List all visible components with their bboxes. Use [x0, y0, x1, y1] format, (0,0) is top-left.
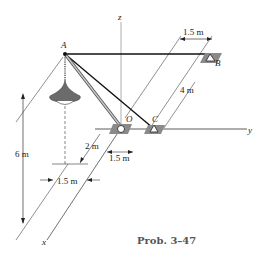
y-axis-label: y: [247, 125, 252, 135]
lamp-bulb: [56, 101, 74, 105]
dim-ext-top-left: [125, 36, 181, 118]
x-axis-label: x: [41, 237, 46, 247]
dim-height-label: 6 m: [15, 149, 29, 159]
arrow-head-icon: [48, 178, 53, 182]
z-axis-label: z: [117, 12, 122, 22]
statics-diagram: z y x 6 m 1.5 m 4 m A 2 m 1.5 m: [0, 0, 263, 255]
point-C-label: C: [152, 114, 159, 124]
arrow-head-icon: [21, 93, 25, 99]
point-O-label: O: [126, 114, 133, 124]
point-B-label: B: [215, 58, 221, 68]
dim-right-label: 4 m: [180, 85, 194, 95]
boom-AO-highlight: [65, 54, 122, 128]
dim-lamp-offset-y-label: 1.5 m: [57, 176, 78, 186]
lamp-shade: [50, 80, 81, 102]
point-A-label: A: [60, 40, 67, 50]
arrow-head-icon: [180, 37, 185, 41]
dim-base-label: 1.5 m: [109, 153, 130, 163]
arrow-head-icon: [21, 218, 25, 224]
problem-caption: Prob. 3–47: [137, 235, 196, 246]
dim-top-label: 1.5 m: [183, 27, 204, 37]
cable-AC: [65, 54, 153, 128]
support-O-ball: [118, 126, 125, 133]
dim-ext-top-right: [150, 36, 212, 128]
dim-lamp-offset-x-label: 2 m: [85, 141, 99, 151]
